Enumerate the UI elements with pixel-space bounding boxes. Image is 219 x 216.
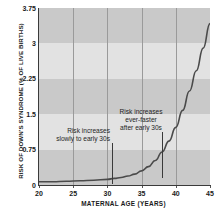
annotation-right-line2: ever-faster: [110, 116, 172, 124]
risk-curve-path: [39, 24, 210, 182]
annotation-right-line3: after early 30s: [110, 124, 172, 132]
x-tick-label-45: 45: [200, 190, 219, 197]
plot-area: [39, 8, 210, 185]
annotation-left: Risk increases slowly to early 30s: [44, 127, 110, 143]
annotation-right: Risk increases ever-faster after early 3…: [110, 108, 172, 132]
y-axis-line: [38, 8, 39, 186]
x-tick-label-30: 30: [97, 190, 117, 197]
annotation-left-leader-line: [112, 143, 113, 184]
x-tick-label-40: 40: [166, 190, 186, 197]
annotation-right-leader-line: [162, 132, 163, 178]
downs-syndrome-risk-chart: RISK OF DOWN'S SYNDROME (% OF LIVE BIRTH…: [0, 0, 219, 216]
x-axis-title: MATERNAL AGE (YEARS): [36, 200, 211, 207]
x-axis-line: [38, 185, 211, 186]
risk-curve: [39, 8, 210, 185]
x-tick-label-25: 25: [63, 190, 83, 197]
annotation-right-line1: Risk increases: [110, 108, 172, 116]
annotation-left-line2: slowly to early 30s: [44, 135, 110, 143]
x-tick-label-20: 20: [29, 190, 49, 197]
x-tick-label-35: 35: [132, 190, 152, 197]
annotation-left-line1: Risk increases: [44, 127, 110, 135]
